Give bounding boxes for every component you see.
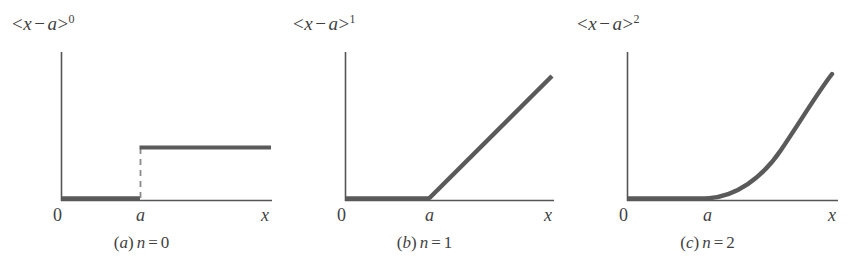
panel-a-caption-letter: a [119, 233, 128, 252]
panel-b: <x−a>1 0 a x (b)n=1 [283, 0, 566, 265]
panel-a-tick-origin: 0 [53, 206, 62, 224]
panel-b-tick-x: x [544, 206, 552, 224]
panel-b-caption: (b)n=1 [283, 234, 566, 251]
panel-b-caption-equals: = [428, 233, 444, 252]
panel-b-plot-area [283, 0, 566, 228]
macaulay-functions-figure: <x−a>0 0 a x (a)n=0 <x−a>1 [0, 0, 849, 265]
panel-c-caption: (c)n=2 [566, 234, 849, 251]
panel-a-plot-area [0, 0, 283, 228]
panel-b-caption-close-paren: ) [411, 233, 417, 252]
panel-c-tick-a: a [703, 206, 712, 224]
panel-a-tick-a: a [136, 206, 145, 224]
panel-c-tick-x: x [828, 206, 836, 224]
panel-a-caption: (a)n=0 [0, 234, 283, 251]
panel-c-quadratic-curve [707, 74, 832, 199]
panel-a-svg [0, 0, 283, 228]
panel-b-caption-letter: b [402, 233, 411, 252]
panel-b-svg [283, 0, 566, 228]
panel-a-caption-variable: n [134, 233, 146, 252]
panel-a-caption-equals: = [145, 233, 161, 252]
panel-a: <x−a>0 0 a x (a)n=0 [0, 0, 283, 265]
panel-b-tick-a: a [425, 206, 434, 224]
panel-a-tick-x: x [261, 206, 269, 224]
panel-c-tick-origin: 0 [619, 206, 628, 224]
panel-c-caption-variable: n [699, 233, 711, 252]
panel-b-tick-origin: 0 [337, 206, 346, 224]
panel-b-ramp-segment [429, 76, 552, 199]
panel-a-caption-value: 0 [161, 233, 170, 252]
panel-b-caption-variable: n [417, 233, 429, 252]
panel-c-caption-value: 2 [726, 233, 735, 252]
panel-c: <x−a>2 0 a x (c)n=2 [566, 0, 849, 265]
panel-c-svg [566, 0, 849, 228]
panel-b-caption-value: 1 [444, 233, 453, 252]
panel-c-caption-equals: = [711, 233, 727, 252]
panel-c-plot-area [566, 0, 849, 228]
panel-a-caption-close-paren: ) [128, 233, 134, 252]
